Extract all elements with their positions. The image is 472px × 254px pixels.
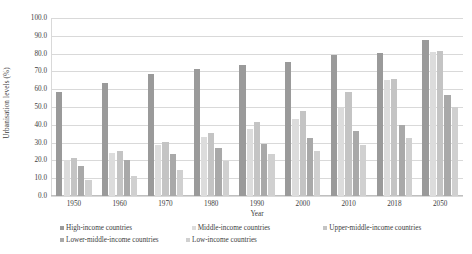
legend-swatch-icon bbox=[323, 226, 327, 230]
bar bbox=[353, 131, 359, 196]
bar-group-2000 bbox=[280, 18, 326, 196]
y-axis-tick-label: 70.0 bbox=[19, 67, 47, 75]
legend-swatch-icon bbox=[186, 238, 190, 242]
legend-item[interactable]: Lower-middle-income countries bbox=[60, 234, 186, 246]
bar bbox=[239, 65, 245, 196]
bar bbox=[406, 138, 412, 196]
bar bbox=[170, 154, 176, 196]
legend-item[interactable]: Middle-income countries bbox=[192, 222, 324, 234]
y-axis-tick-label: 20.0 bbox=[19, 156, 47, 164]
urbanisation-levels-bar-chart: Urbanisation levels (%) 100.090.080.070.… bbox=[0, 0, 472, 254]
bar bbox=[162, 142, 168, 196]
legend-row-2: Lower-middle-income countriesLow-income … bbox=[60, 234, 455, 246]
bar-group-2050 bbox=[417, 18, 463, 196]
bar-group-2018 bbox=[371, 18, 417, 196]
bar-group-2010 bbox=[326, 18, 372, 196]
bar bbox=[437, 51, 443, 196]
bar bbox=[254, 122, 260, 196]
legend-label: Lower-middle-income countries bbox=[66, 234, 159, 246]
legend-label: High-income countries bbox=[66, 222, 132, 234]
legend-swatch-icon bbox=[60, 238, 64, 242]
bar bbox=[422, 40, 428, 196]
bar bbox=[71, 158, 77, 196]
bar bbox=[102, 83, 108, 196]
bar bbox=[391, 79, 397, 196]
legend-swatch-icon bbox=[60, 226, 64, 230]
y-axis-tick-label: 10.0 bbox=[19, 174, 47, 182]
bar-group-1970 bbox=[143, 18, 189, 196]
legend-item[interactable]: High-income countries bbox=[60, 222, 192, 234]
chart-legend: High-income countriesMiddle-income count… bbox=[60, 222, 455, 248]
y-axis-tick-label: 60.0 bbox=[19, 85, 47, 93]
bar bbox=[177, 170, 183, 196]
bar bbox=[124, 160, 130, 196]
y-axis-tick-label: 80.0 bbox=[19, 50, 47, 58]
legend-label: Upper-middle-income countries bbox=[329, 222, 421, 234]
bar-group-1980 bbox=[188, 18, 234, 196]
bar bbox=[117, 151, 123, 196]
bar bbox=[300, 111, 306, 196]
bar bbox=[194, 69, 200, 196]
y-axis-tick-label: 40.0 bbox=[19, 121, 47, 129]
bar bbox=[430, 52, 436, 196]
bar bbox=[148, 74, 154, 196]
bar bbox=[444, 95, 450, 196]
y-axis-tick-label: 50.0 bbox=[19, 103, 47, 111]
legend-label: Middle-income countries bbox=[198, 222, 270, 234]
bar-group-1960 bbox=[97, 18, 143, 196]
bar bbox=[338, 108, 344, 196]
y-axis-title: Urbanisation levels (%) bbox=[0, 10, 14, 196]
bar bbox=[64, 160, 70, 196]
legend-swatch-icon bbox=[192, 226, 196, 230]
y-axis-tick-label: 90.0 bbox=[19, 32, 47, 40]
bar-groups bbox=[51, 18, 463, 196]
bar bbox=[314, 151, 320, 196]
bar-group-1950 bbox=[51, 18, 97, 196]
gridline bbox=[51, 196, 463, 197]
bar bbox=[208, 133, 214, 196]
bar bbox=[285, 62, 291, 196]
bar bbox=[78, 166, 84, 196]
bar bbox=[131, 176, 137, 196]
x-axis-title: Year bbox=[51, 209, 463, 219]
y-axis-tick-label: 30.0 bbox=[19, 139, 47, 147]
bar bbox=[85, 180, 91, 196]
bar bbox=[345, 92, 351, 196]
bar bbox=[399, 125, 405, 196]
bar bbox=[56, 92, 62, 196]
bar bbox=[331, 55, 337, 196]
bar bbox=[109, 153, 115, 196]
legend-item[interactable]: Upper-middle-income countries bbox=[323, 222, 455, 234]
bar bbox=[247, 129, 253, 196]
bar bbox=[215, 148, 221, 196]
bar bbox=[384, 80, 390, 196]
bar bbox=[155, 145, 161, 196]
y-axis-tick-label: 100.0 bbox=[19, 14, 47, 22]
bar bbox=[201, 137, 207, 196]
bar bbox=[307, 138, 313, 196]
bar bbox=[292, 119, 298, 196]
bar bbox=[377, 53, 383, 196]
bar bbox=[223, 161, 229, 196]
plot-area bbox=[51, 18, 463, 196]
legend-row-1: High-income countriesMiddle-income count… bbox=[60, 222, 455, 234]
y-axis-tick-label: 0.0 bbox=[19, 192, 47, 200]
bar bbox=[261, 144, 267, 197]
y-axis-tick-labels: 100.090.080.070.060.050.040.030.020.010.… bbox=[19, 18, 47, 196]
legend-item[interactable]: Low-income countries bbox=[186, 234, 257, 246]
legend-label: Low-income countries bbox=[192, 234, 257, 246]
bar-group-1990 bbox=[234, 18, 280, 196]
bar bbox=[360, 145, 366, 196]
bar bbox=[452, 107, 458, 196]
bar bbox=[268, 154, 274, 196]
